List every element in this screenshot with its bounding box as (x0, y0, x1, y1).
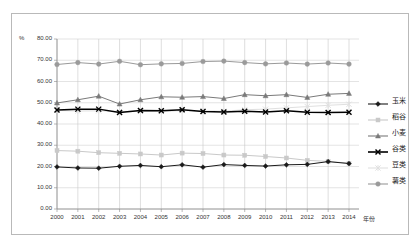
y-tick-label: 70.00 (12, 56, 52, 62)
x-tick-label: 2014 (337, 214, 361, 220)
legend-label: 豆类 (392, 161, 406, 168)
legend-item-稻谷[interactable]: 稻谷 (367, 108, 420, 124)
legend-marker-icon (367, 175, 389, 185)
y-axis-unit-label: % (19, 35, 24, 41)
y-tick-label: 20.00 (12, 163, 52, 169)
y-tick-label: 30.00 (12, 141, 52, 147)
legend-marker-icon (367, 111, 389, 121)
legend-item-玉米[interactable]: 玉米 (367, 92, 420, 108)
legend-marker-icon (367, 95, 389, 105)
chart-legend: 玉米稻谷小麦谷类豆类薯类 (367, 92, 420, 188)
y-tick-label: 40.00 (12, 120, 52, 126)
legend-label: 玉米 (392, 97, 406, 104)
legend-label: 薯类 (392, 177, 406, 184)
y-tick-label: 60.00 (12, 78, 52, 84)
legend-marker-icon (367, 143, 389, 153)
legend-label: 小麦 (392, 129, 406, 136)
legend-item-豆类[interactable]: 豆类 (367, 156, 420, 172)
chart-frame: 0.0010.0020.0030.0040.0050.0060.0070.008… (11, 13, 409, 235)
y-tick-label: 80.00 (12, 35, 52, 41)
legend-marker-icon (367, 127, 389, 137)
legend-item-薯类[interactable]: 薯类 (367, 172, 420, 188)
x-axis-title: 年份 (363, 214, 375, 223)
legend-item-小麦[interactable]: 小麦 (367, 124, 420, 140)
legend-item-谷类[interactable]: 谷类 (367, 140, 420, 156)
chart-figure: 0.0010.0020.0030.0040.0050.0060.0070.008… (0, 0, 420, 248)
legend-label: 谷类 (392, 145, 406, 152)
gridlines (57, 39, 359, 209)
line-chart-plot (12, 14, 408, 234)
legend-label: 稻谷 (392, 113, 406, 120)
y-tick-label: 10.00 (12, 184, 52, 190)
y-tick-label: 50.00 (12, 99, 52, 105)
y-tick-label: 0.00 (12, 205, 52, 211)
legend-marker-icon (367, 159, 389, 169)
